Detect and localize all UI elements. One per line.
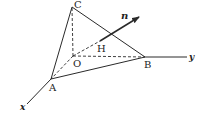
label-y-axis: y (188, 52, 195, 62)
edge-OC (72, 7, 73, 56)
label-B: B (144, 59, 151, 70)
x-axis-line (27, 79, 51, 104)
label-x-axis: x (19, 102, 26, 112)
edge-AB (51, 57, 145, 79)
label-O: O (73, 58, 81, 69)
label-H: H (97, 43, 106, 54)
normal-vector-arrow (100, 17, 139, 41)
label-C: C (74, 0, 82, 10)
edge-CB (72, 7, 145, 57)
tetrahedron-diagram: C O H B A n x y (0, 0, 200, 120)
label-A: A (48, 82, 57, 93)
label-n: n (121, 10, 128, 21)
segment-OH (73, 41, 100, 56)
edge-OB (73, 56, 145, 57)
